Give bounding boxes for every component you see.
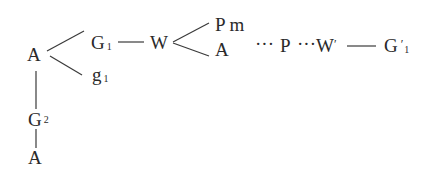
node-g1: G1 (91, 33, 110, 55)
node-g2: G2 (28, 110, 47, 132)
node-pm: P m (215, 15, 244, 34)
edge-w-a (173, 43, 209, 56)
edge-a-g1-lower (50, 56, 82, 75)
node-g1-prime: G′1 (384, 36, 405, 58)
node-a-branch: A (215, 40, 229, 59)
node-g1-lower: g1 (92, 65, 107, 87)
edge-w-pm (173, 23, 209, 42)
dots-connector-2: ··· (297, 34, 316, 53)
node-p: P (280, 36, 291, 55)
glycan-structure-diagram: A G1 g1 W P m A ··· P ··· W′ G′1 G2 A (0, 0, 431, 179)
node-w-prime: W′ (316, 36, 337, 58)
node-a-bottom: A (28, 148, 42, 167)
node-w: W (150, 33, 168, 52)
edge-a-g1 (47, 31, 84, 51)
dots-connector-1: ··· (255, 34, 274, 53)
node-a-root: A (27, 45, 41, 64)
